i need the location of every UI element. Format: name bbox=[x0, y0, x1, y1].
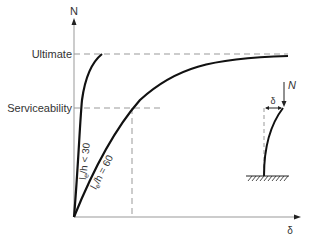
inset-deflection-label: δ bbox=[270, 96, 275, 106]
y-axis-label: N bbox=[70, 5, 78, 17]
svg-text:le/h = 60: le/h = 60 bbox=[88, 153, 116, 192]
y-axis-arrow-icon bbox=[72, 18, 77, 25]
deflected-column bbox=[264, 108, 283, 176]
serviceability-label: Serviceability bbox=[7, 102, 72, 114]
curve-label-60: le/h = 60 bbox=[88, 153, 116, 192]
svg-text:le/h < 30: le/h < 30 bbox=[77, 142, 93, 180]
curve-label-30: le/h < 30 bbox=[77, 142, 93, 180]
column-inset: N δ bbox=[246, 79, 296, 181]
curve-slender-30 bbox=[74, 54, 102, 217]
load-deflection-diagram: N δ Ultimate Serviceability le/h < 30 le… bbox=[0, 0, 311, 238]
inset-load-label: N bbox=[288, 79, 296, 91]
curve-slender-60 bbox=[74, 56, 288, 217]
ultimate-label: Ultimate bbox=[32, 48, 72, 60]
x-axis-label: δ bbox=[287, 225, 293, 236]
load-arrow-icon bbox=[282, 101, 287, 107]
deflection-arrow-left-icon bbox=[265, 106, 269, 110]
x-axis-arrow-icon bbox=[294, 215, 301, 220]
fixed-base-hatching bbox=[248, 176, 288, 181]
